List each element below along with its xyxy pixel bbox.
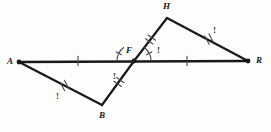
angle-arc-HFR — [144, 47, 152, 61]
vertex-label-r: R — [256, 56, 262, 65]
geometry-figure: ABFHR!!!! — [0, 0, 271, 132]
vertex-label-b: B — [99, 111, 105, 120]
vertex-dot-r — [246, 59, 251, 64]
congruence-mark-AB: ! — [56, 92, 59, 101]
vertex-label-h: H — [163, 2, 170, 11]
segment-FH — [134, 18, 167, 61]
congruence-mark-HR: ! — [213, 26, 216, 35]
angle-arc-BFA — [116, 47, 124, 61]
vertex-dot-f — [132, 59, 137, 64]
geometry-canvas — [0, 0, 271, 132]
segment-HR — [167, 18, 248, 61]
segment-BF — [102, 61, 134, 105]
congruence-mark-HFR: ! — [157, 46, 160, 55]
vertex-dot-a — [17, 60, 22, 65]
congruence-mark-BFA: ! — [113, 72, 116, 81]
vertex-label-f: F — [126, 46, 132, 55]
vertex-label-a: A — [7, 57, 13, 66]
